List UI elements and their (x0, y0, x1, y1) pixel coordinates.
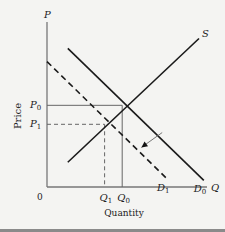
price-label-e0: P0 (29, 99, 41, 112)
curve-d0 (68, 48, 204, 180)
origin-label: 0 (37, 192, 43, 202)
shift-arrow-head-icon (141, 141, 148, 147)
curve-label-d1: D1 (156, 182, 170, 195)
curve-d1 (47, 62, 167, 179)
y-axis-letter: P (43, 9, 51, 20)
supply-demand-diagram: P Q 0 Price Quantity P0Q0P1Q1SD0D1 (0, 0, 225, 232)
y-axis-title: Price (12, 103, 23, 129)
quantity-label-e1: Q1 (100, 192, 113, 205)
curve-label-s: S (202, 28, 209, 39)
x-axis-title: Quantity (104, 208, 144, 218)
bottom-border (0, 229, 225, 232)
quantity-label-e0: Q0 (117, 192, 130, 205)
x-axis-letter: Q (211, 182, 219, 193)
price-label-e1: P1 (29, 118, 41, 131)
curve-label-d0: D0 (193, 183, 207, 196)
curve-s (68, 39, 199, 163)
